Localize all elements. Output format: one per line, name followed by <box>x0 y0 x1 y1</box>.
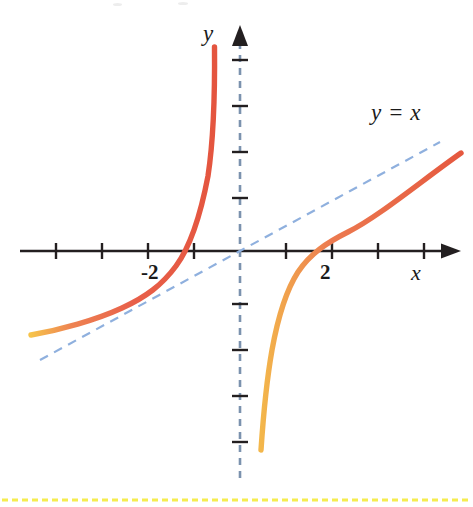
x-tick-label-pos2: 2 <box>320 262 331 283</box>
line-equation-label: y = x <box>371 101 421 124</box>
curve-left-branch <box>31 47 215 335</box>
scan-speck <box>178 2 188 5</box>
scan-speck <box>113 3 122 6</box>
y-axis-label: y <box>203 22 213 45</box>
math-graph-figure: y x y = x -2 2 <box>0 0 473 507</box>
x-axis-arrowhead <box>441 244 461 259</box>
x-tick-label-neg2: -2 <box>141 262 159 283</box>
x-axis-label: x <box>411 262 421 284</box>
curve-right-branch <box>261 153 461 450</box>
graph-canvas <box>0 0 473 507</box>
y-axis-arrowhead <box>232 25 248 46</box>
